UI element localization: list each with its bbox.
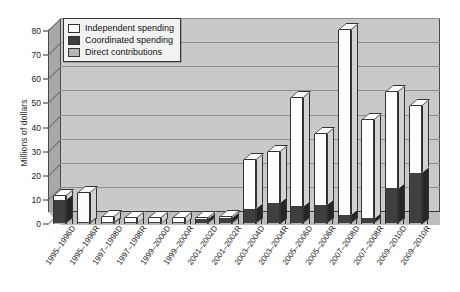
bar-segment-independent — [361, 120, 374, 219]
bar-segment-independent — [314, 134, 327, 205]
bar-segment-independent — [124, 218, 137, 223]
x-axis-labels: 1995–1996D1995–1996R1997–1998D1997–1998R… — [48, 224, 440, 292]
x-tick-mark-13 — [380, 219, 381, 224]
bar-segment-independent — [172, 218, 185, 223]
bar-segment-coordinated — [361, 218, 374, 223]
legend-label-direct: Direct contributions — [85, 47, 162, 57]
bar-segment-independent — [53, 196, 66, 200]
bar-segment-independent — [290, 98, 303, 207]
bar-segment-side-independent — [280, 146, 287, 202]
bar-segment-side-independent — [256, 155, 263, 209]
x-tick-mark-5 — [190, 219, 191, 224]
legend-label-coordinated: Coordinated spending — [85, 35, 173, 45]
bar-segment-independent — [101, 217, 114, 222]
bar-segment-coordinated — [77, 222, 90, 223]
bar-segment-coordinated — [53, 200, 66, 223]
bar-segment-independent — [338, 30, 351, 215]
legend-swatch-coordinated-icon — [68, 36, 80, 45]
bar-segment-side-independent — [327, 129, 334, 206]
x-tick-mark-6 — [214, 219, 215, 224]
legend-swatch-independent-icon — [68, 24, 80, 33]
y-axis-title: Millions of dollars — [19, 63, 29, 203]
x-tick-mark-14 — [403, 219, 404, 224]
bar-segment-coordinated — [148, 222, 161, 223]
bar-segment-independent — [243, 160, 256, 208]
bar-segment-independent — [195, 218, 208, 219]
bar-segment-coordinated — [101, 222, 114, 223]
bar-segment-independent — [148, 218, 161, 223]
gridline-50 — [60, 90, 440, 91]
x-tick-mark-10 — [309, 219, 310, 224]
bar-segment-side-independent — [90, 188, 97, 222]
bar-segment-side-independent — [422, 101, 429, 173]
bar-segment-independent — [267, 152, 280, 203]
bar-segment-side-independent — [398, 86, 405, 188]
gridline-40 — [60, 115, 440, 116]
bar-segment-coordinated — [385, 188, 398, 223]
bar-segment-coordinated — [409, 173, 422, 224]
x-tick-mark-1 — [95, 219, 96, 224]
legend-item-direct: Direct contributions — [68, 46, 174, 58]
bar-segment-coordinated — [290, 206, 303, 223]
x-tick-mark-7 — [238, 219, 239, 224]
bar-segment-side-coordinated — [422, 167, 429, 223]
x-tick-mark-0 — [72, 219, 73, 224]
legend-item-independent: Independent spending — [68, 22, 174, 34]
bar-segment-coordinated — [172, 222, 185, 223]
gridline-30 — [60, 139, 440, 140]
legend-swatch-direct-icon — [68, 48, 80, 57]
gridline-60 — [60, 66, 440, 67]
bar-segment-side-independent — [303, 92, 310, 206]
x-tick-mark-3 — [143, 219, 144, 224]
x-tick-mark-2 — [119, 219, 120, 224]
bar-segment-side-independent — [374, 114, 381, 218]
bar-segment-coordinated — [314, 205, 327, 223]
bar-segment-coordinated — [124, 222, 137, 223]
x-tick-mark-8 — [261, 219, 262, 224]
x-tick-mark-12 — [356, 219, 357, 224]
legend-item-coordinated: Coordinated spending — [68, 34, 174, 46]
chart-container: Millions of dollars 01020304050607080 19… — [0, 0, 460, 292]
bar-segment-side-independent — [351, 25, 358, 215]
x-tick-mark-9 — [285, 219, 286, 224]
x-tick-mark-4 — [166, 219, 167, 224]
bar-segment-independent — [409, 106, 422, 172]
bar-segment-coordinated — [267, 203, 280, 224]
x-tick-mark-11 — [332, 219, 333, 224]
bar-segment-independent — [219, 217, 232, 218]
legend-label-independent: Independent spending — [85, 23, 174, 33]
bar-segment-coordinated — [195, 219, 208, 223]
chart-legend: Independent spending Coordinated spendin… — [63, 18, 181, 62]
bar-segment-independent — [385, 92, 398, 189]
bar-segment-coordinated — [219, 218, 232, 223]
bar-segment-independent — [77, 193, 90, 222]
bar-segment-coordinated — [338, 215, 351, 223]
bar-segment-coordinated — [243, 209, 256, 223]
x-tick-mark-15 — [427, 219, 428, 224]
bar-segment-side-coordinated — [398, 183, 405, 223]
